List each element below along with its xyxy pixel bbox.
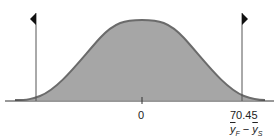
x-axis-label: yF − yS — [230, 124, 263, 137]
minus-sign: − — [243, 123, 249, 135]
zero-label: 0 — [138, 110, 144, 121]
subscript-f: F — [236, 130, 240, 137]
right-flag-icon — [242, 13, 248, 25]
left-flag-icon — [30, 13, 36, 25]
observed-value-label: 70.45 — [230, 110, 258, 121]
subscript-s: S — [258, 130, 263, 137]
